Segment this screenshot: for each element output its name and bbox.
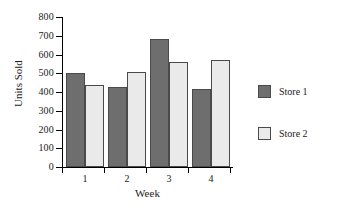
legend-item-store-2: Store 2 bbox=[258, 126, 354, 140]
x-axis-tick-label: 1 bbox=[75, 173, 95, 184]
y-axis-tick bbox=[56, 148, 62, 149]
y-axis-tick bbox=[56, 17, 62, 18]
legend-item-label: Store 1 bbox=[279, 86, 308, 97]
bar-store-1-week-1 bbox=[66, 73, 85, 167]
x-axis-tick bbox=[146, 168, 147, 173]
y-axis-tick bbox=[56, 55, 62, 56]
x-axis-tick bbox=[230, 168, 231, 173]
x-axis-line bbox=[62, 167, 233, 168]
x-axis-tick-label: 4 bbox=[201, 173, 221, 184]
legend-swatch-icon bbox=[258, 85, 271, 98]
x-axis-tick bbox=[104, 168, 105, 173]
bar-store-2-week-4 bbox=[211, 60, 230, 167]
legend-item-label: Store 2 bbox=[279, 128, 308, 139]
y-axis-tick bbox=[56, 111, 62, 112]
legend-item-store-1: Store 1 bbox=[258, 84, 354, 98]
y-axis-tick-label: 100 bbox=[14, 143, 54, 153]
bar-store-2-week-2 bbox=[127, 72, 146, 167]
y-axis-tick bbox=[56, 130, 62, 131]
bar-store-1-week-3 bbox=[150, 39, 169, 167]
y-axis-tick bbox=[56, 73, 62, 74]
bar-chart-figure: 0100200300400500600700800 Units Sold 123… bbox=[0, 0, 357, 211]
y-axis-line bbox=[62, 17, 63, 168]
x-axis-tick-label: 3 bbox=[159, 173, 179, 184]
x-axis-tick bbox=[188, 168, 189, 173]
y-axis-title: Units Sold bbox=[13, 44, 24, 124]
legend-swatch-icon bbox=[258, 127, 271, 140]
y-axis-tick bbox=[56, 92, 62, 93]
y-axis-tick-label: 0 bbox=[14, 162, 54, 172]
bar-store-2-week-1 bbox=[85, 85, 104, 168]
y-axis-tick-label: 200 bbox=[14, 125, 54, 135]
y-axis-tick-label: 800 bbox=[14, 12, 54, 22]
bar-store-2-week-3 bbox=[169, 62, 188, 167]
x-axis-tick-label: 2 bbox=[117, 173, 137, 184]
bar-store-1-week-2 bbox=[108, 87, 127, 167]
x-axis-title: Week bbox=[62, 188, 233, 199]
bar-store-1-week-4 bbox=[192, 89, 211, 167]
y-axis-tick-label: 700 bbox=[14, 31, 54, 41]
y-axis-tick bbox=[56, 36, 62, 37]
legend: Store 1Store 2 bbox=[258, 84, 354, 168]
x-axis-tick bbox=[62, 168, 63, 173]
